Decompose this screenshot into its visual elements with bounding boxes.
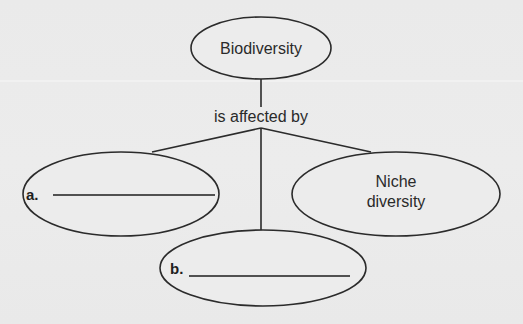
- node-label-line2: diversity: [367, 193, 426, 210]
- node-b: b.: [160, 230, 366, 306]
- concept-map: Biodiversity is affected by a. Niche div…: [0, 0, 523, 324]
- node-label-line1: Niche: [376, 173, 417, 190]
- node-ellipse: [23, 152, 219, 236]
- node-biodiversity: Biodiversity: [191, 17, 331, 79]
- branch-line-niche: [261, 128, 371, 152]
- node-a: a.: [23, 152, 219, 236]
- blank-marker-b: b.: [170, 260, 183, 277]
- blank-marker-a: a.: [26, 186, 39, 203]
- node-ellipse: [160, 230, 366, 306]
- connector-label: is affected by: [214, 108, 308, 125]
- node-niche-diversity: Niche diversity: [292, 152, 500, 236]
- diagram-canvas: Biodiversity is affected by a. Niche div…: [0, 0, 523, 324]
- branch-line-a: [152, 128, 261, 152]
- node-label: Biodiversity: [220, 40, 302, 57]
